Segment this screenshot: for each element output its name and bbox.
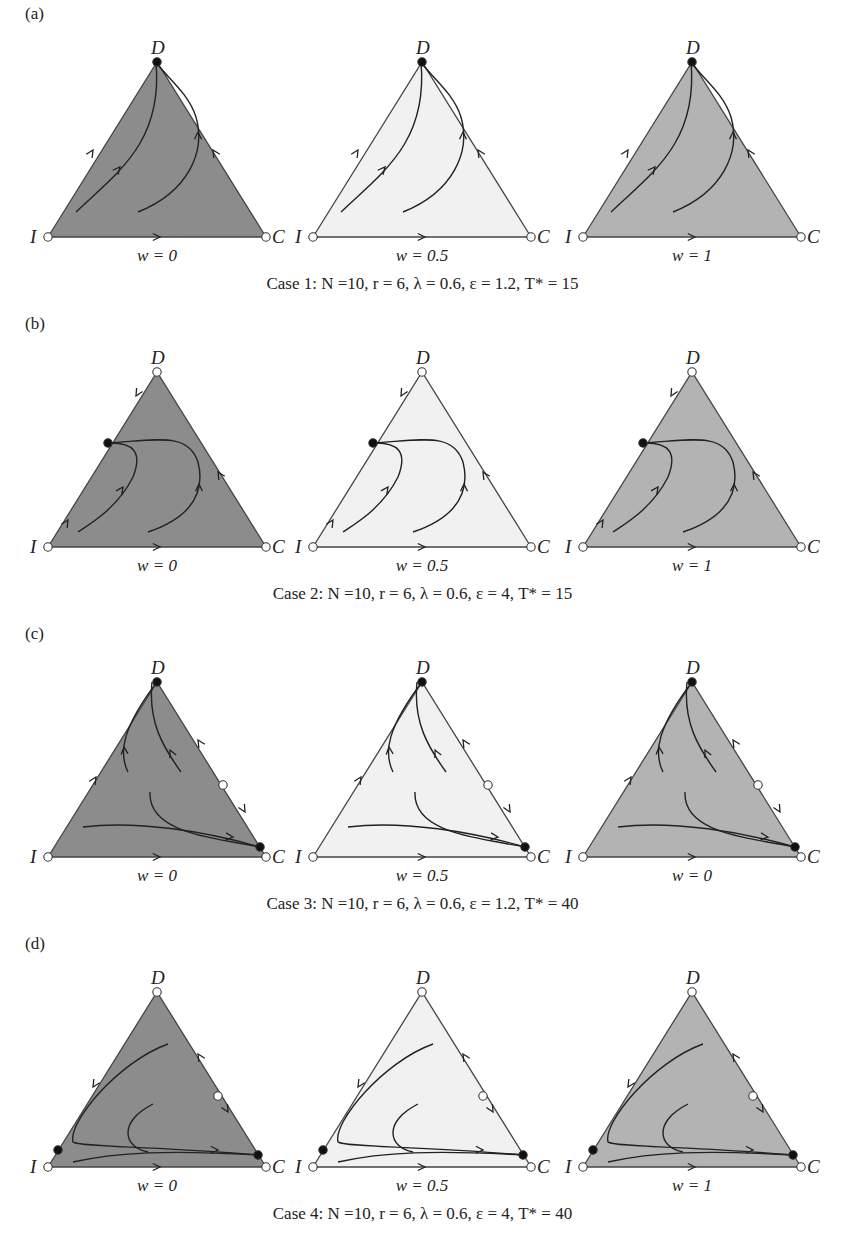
svg-text:C: C bbox=[537, 226, 550, 247]
w-label: w = 0 bbox=[97, 556, 217, 576]
svg-text:C: C bbox=[272, 846, 285, 867]
w-label: w = 0.5 bbox=[362, 556, 482, 576]
svg-text:I: I bbox=[294, 536, 303, 557]
figure-row-a: (a)DICw = 0DICw = 0.5DICw = 1Case 1: N =… bbox=[0, 0, 845, 310]
svg-text:I: I bbox=[564, 1156, 573, 1177]
svg-text:C: C bbox=[272, 536, 285, 557]
simplex-a-1: DIC bbox=[28, 0, 286, 210]
simplex-c-1: DIC bbox=[28, 620, 286, 830]
simplex-b-1: DIC bbox=[28, 310, 286, 520]
svg-text:C: C bbox=[537, 536, 550, 557]
figure-row-c: (c)DICw = 0DICw = 0.5DICw = 0Case 3: N =… bbox=[0, 620, 845, 930]
w-label: w = 0.5 bbox=[362, 1176, 482, 1196]
svg-text:I: I bbox=[29, 536, 38, 557]
svg-text:I: I bbox=[294, 846, 303, 867]
svg-text:C: C bbox=[272, 226, 285, 247]
svg-text:D: D bbox=[685, 657, 700, 678]
case-caption: Case 3: N =10, r = 6, λ = 0.6, ε = 1.2, … bbox=[0, 894, 845, 914]
svg-text:D: D bbox=[150, 37, 165, 58]
w-label: w = 0 bbox=[97, 246, 217, 266]
figure-row-b: (b)DICw = 0DICw = 0.5DICw = 1Case 2: N =… bbox=[0, 310, 845, 620]
case-caption: Case 1: N =10, r = 6, λ = 0.6, ε = 1.2, … bbox=[0, 274, 845, 294]
svg-text:I: I bbox=[29, 846, 38, 867]
simplex-c-3: DIC bbox=[563, 620, 821, 830]
case-caption: Case 2: N =10, r = 6, λ = 0.6, ε = 4, T*… bbox=[0, 584, 845, 604]
w-label: w = 1 bbox=[632, 1176, 752, 1196]
svg-text:D: D bbox=[415, 347, 430, 368]
w-label: w = 0.5 bbox=[362, 866, 482, 886]
simplex-d-3: DIC bbox=[563, 930, 821, 1140]
w-label: w = 0 bbox=[632, 866, 752, 886]
svg-text:I: I bbox=[29, 1156, 38, 1177]
simplex-d-1: DIC bbox=[28, 930, 286, 1140]
svg-text:I: I bbox=[294, 226, 303, 247]
w-label: w = 1 bbox=[632, 246, 752, 266]
svg-text:C: C bbox=[807, 226, 820, 247]
svg-text:D: D bbox=[415, 657, 430, 678]
svg-text:C: C bbox=[537, 846, 550, 867]
svg-text:I: I bbox=[29, 226, 38, 247]
svg-text:D: D bbox=[415, 967, 430, 988]
svg-text:I: I bbox=[564, 226, 573, 247]
w-label: w = 1 bbox=[632, 556, 752, 576]
w-label: w = 0 bbox=[97, 1176, 217, 1196]
svg-text:C: C bbox=[807, 1156, 820, 1177]
svg-text:D: D bbox=[685, 37, 700, 58]
svg-text:C: C bbox=[807, 846, 820, 867]
svg-text:D: D bbox=[685, 347, 700, 368]
w-label: w = 0 bbox=[97, 866, 217, 886]
simplex-b-3: DIC bbox=[563, 310, 821, 520]
simplex-a-3: DIC bbox=[563, 0, 821, 210]
figure-row-d: (d)DICw = 0DICw = 0.5DICw = 1Case 4: N =… bbox=[0, 930, 845, 1240]
svg-text:C: C bbox=[807, 536, 820, 557]
svg-text:D: D bbox=[685, 967, 700, 988]
svg-text:I: I bbox=[564, 846, 573, 867]
svg-text:I: I bbox=[564, 536, 573, 557]
simplex-d-2: DIC bbox=[293, 930, 551, 1140]
simplex-b-2: DIC bbox=[293, 310, 551, 520]
case-caption: Case 4: N =10, r = 6, λ = 0.6, ε = 4, T*… bbox=[0, 1204, 845, 1224]
svg-text:D: D bbox=[150, 347, 165, 368]
svg-text:C: C bbox=[537, 1156, 550, 1177]
svg-text:D: D bbox=[150, 657, 165, 678]
simplex-c-2: DIC bbox=[293, 620, 551, 830]
w-label: w = 0.5 bbox=[362, 246, 482, 266]
simplex-a-2: DIC bbox=[293, 0, 551, 210]
svg-text:C: C bbox=[272, 1156, 285, 1177]
svg-text:D: D bbox=[415, 37, 430, 58]
svg-text:I: I bbox=[294, 1156, 303, 1177]
svg-text:D: D bbox=[150, 967, 165, 988]
